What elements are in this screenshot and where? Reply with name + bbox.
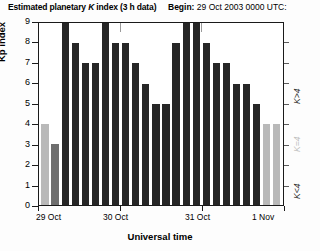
right-axis-tick [284, 83, 289, 84]
x-axis-tick [38, 206, 39, 211]
bar-slot [262, 23, 272, 205]
begin-label: Begin: [168, 2, 194, 12]
y-axis-tick-label: 5 [4, 99, 30, 108]
y-axis-tick-label: 4 [4, 119, 30, 128]
y-axis-tick-label: 1 [4, 181, 30, 190]
bar [112, 43, 119, 205]
y-axis-tick-label: 0 [4, 201, 30, 210]
y-axis-tick-label: 7 [4, 58, 30, 67]
begin-annotation: Begin: 29 Oct 2003 0000 UTC: [168, 2, 287, 12]
bar [203, 43, 210, 205]
day-separator-tick [120, 23, 121, 32]
right-axis-tick [284, 42, 289, 43]
legend-k-equal-4: K=4 [292, 137, 302, 152]
x-axis-label: Universal time [0, 231, 320, 242]
y-axis-tick-label: 9 [4, 17, 30, 26]
x-axis-tick-label: 29 Oct [36, 212, 61, 222]
bar-series [39, 23, 283, 205]
bar [263, 124, 270, 205]
x-axis-tick-label: 30 Oct [103, 212, 128, 222]
bar-slot [171, 23, 181, 205]
x-axis-tick [284, 206, 285, 211]
bar [213, 63, 220, 205]
begin-value: 29 Oct 2003 0000 UTC: [197, 2, 287, 12]
bar-slot [161, 23, 171, 205]
bar [51, 144, 58, 205]
y-axis-tick-label: 8 [4, 37, 30, 46]
bar [273, 124, 280, 205]
bar-slot [121, 23, 131, 205]
legend-k-greater-4: K>4 [292, 89, 302, 104]
x-axis-tick [120, 206, 121, 211]
bar [253, 104, 260, 205]
chart-title-pre: Estimated planetary [8, 2, 88, 12]
bar [172, 43, 179, 205]
bar-slot [60, 23, 70, 205]
chart-title: Estimated planetary K index (3 h data) [8, 2, 156, 12]
bar-slot [252, 23, 262, 205]
bar [41, 124, 48, 205]
bar-slot [242, 23, 252, 205]
bar [132, 63, 139, 205]
bar-slot [151, 23, 161, 205]
day-separator-tick [201, 23, 202, 32]
bar-slot [221, 23, 231, 205]
x-axis-tick-label: 1 Nov [252, 212, 274, 222]
right-axis-tick [284, 63, 289, 64]
bar [243, 84, 250, 205]
bar-slot [231, 23, 241, 205]
x-axis-tick [202, 206, 203, 211]
bar [122, 43, 129, 205]
bar-slot [40, 23, 50, 205]
x-axis-tick-label: 31 Oct [185, 212, 210, 222]
chart-title-post: index (3 h data) [94, 2, 156, 12]
bar-slot [201, 23, 211, 205]
bar-slot [211, 23, 221, 205]
y-axis-tick-label: 2 [4, 160, 30, 169]
bar [223, 63, 230, 205]
bar-slot [80, 23, 90, 205]
bar [233, 84, 240, 205]
bar-slot [90, 23, 100, 205]
bar [62, 23, 69, 205]
bar [162, 104, 169, 205]
y-axis-tick-label: 6 [4, 78, 30, 87]
legend-k-less-4: K<4 [292, 184, 302, 199]
bar-slot [131, 23, 141, 205]
bar [82, 63, 89, 205]
chart-header: Estimated planetary K index (3 h data) B… [0, 2, 320, 18]
plot-area [38, 22, 284, 206]
bar [152, 104, 159, 205]
bar [183, 23, 190, 205]
right-axis-tick [284, 124, 289, 125]
chart-figure: Estimated planetary K index (3 h data) B… [0, 0, 320, 251]
right-axis-tick [284, 104, 289, 105]
right-axis-tick [284, 186, 289, 187]
bar [102, 23, 109, 205]
bar-slot [272, 23, 282, 205]
y-axis-tick-label: 3 [4, 140, 30, 149]
bar-slot [181, 23, 191, 205]
bar [193, 23, 200, 205]
bar [142, 84, 149, 205]
bar-slot [191, 23, 201, 205]
bar [92, 63, 99, 205]
bar-slot [70, 23, 80, 205]
right-axis-tick [284, 145, 289, 146]
right-axis-tick [284, 165, 289, 166]
bar [72, 43, 79, 205]
bar-slot [100, 23, 110, 205]
bar-slot [50, 23, 60, 205]
bar-slot [111, 23, 121, 205]
bar-slot [141, 23, 151, 205]
